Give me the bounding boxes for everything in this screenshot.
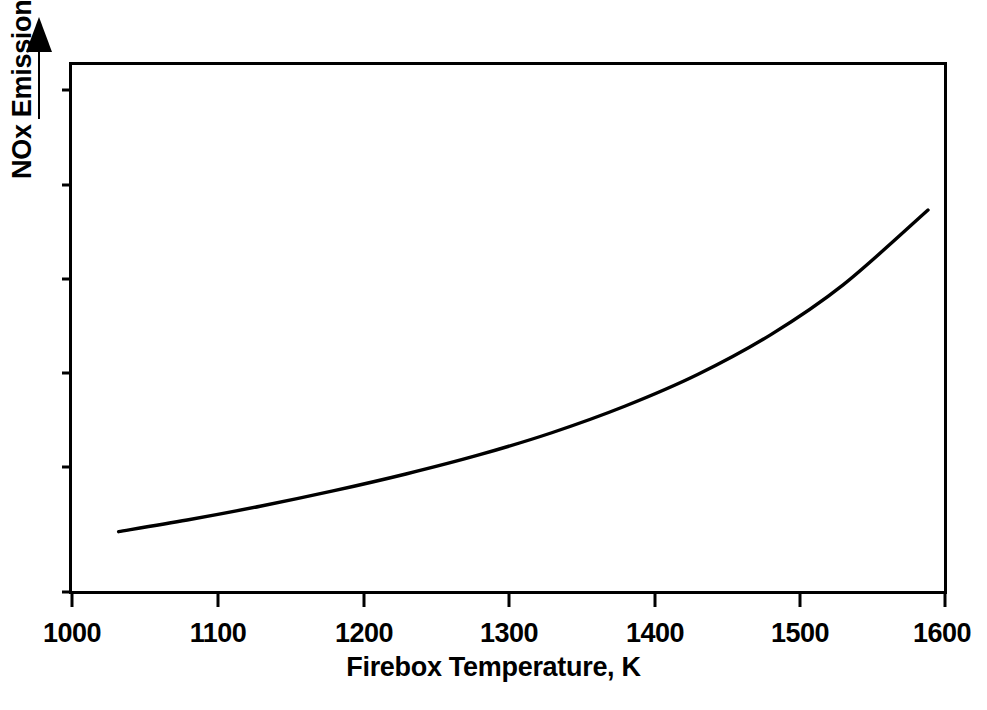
y-axis-title: NOx Emissions, Increasing (0, 0, 44, 179)
chart-canvas (0, 0, 987, 710)
x-tick-label-1500: 1500 (771, 618, 829, 649)
x-axis-ticks (72, 592, 945, 607)
x-axis-title: Firebox Temperature, K (0, 652, 987, 683)
nox-emissions-curve (119, 210, 928, 532)
x-tick-label-1400: 1400 (626, 618, 684, 649)
nox-emissions-chart-figure: 1000 1100 1200 1300 1400 1500 1600 Fireb… (0, 0, 987, 710)
x-tick-label-1200: 1200 (335, 618, 393, 649)
x-tick-label-1300: 1300 (480, 618, 538, 649)
x-tick-label-1100: 1100 (190, 618, 247, 649)
x-tick-label-1600: 1600 (913, 618, 971, 649)
y-axis-title-text: NOx Emissions, Increasing (0, 0, 44, 179)
x-tick-label-1000: 1000 (43, 618, 101, 649)
plot-frame (71, 64, 946, 593)
